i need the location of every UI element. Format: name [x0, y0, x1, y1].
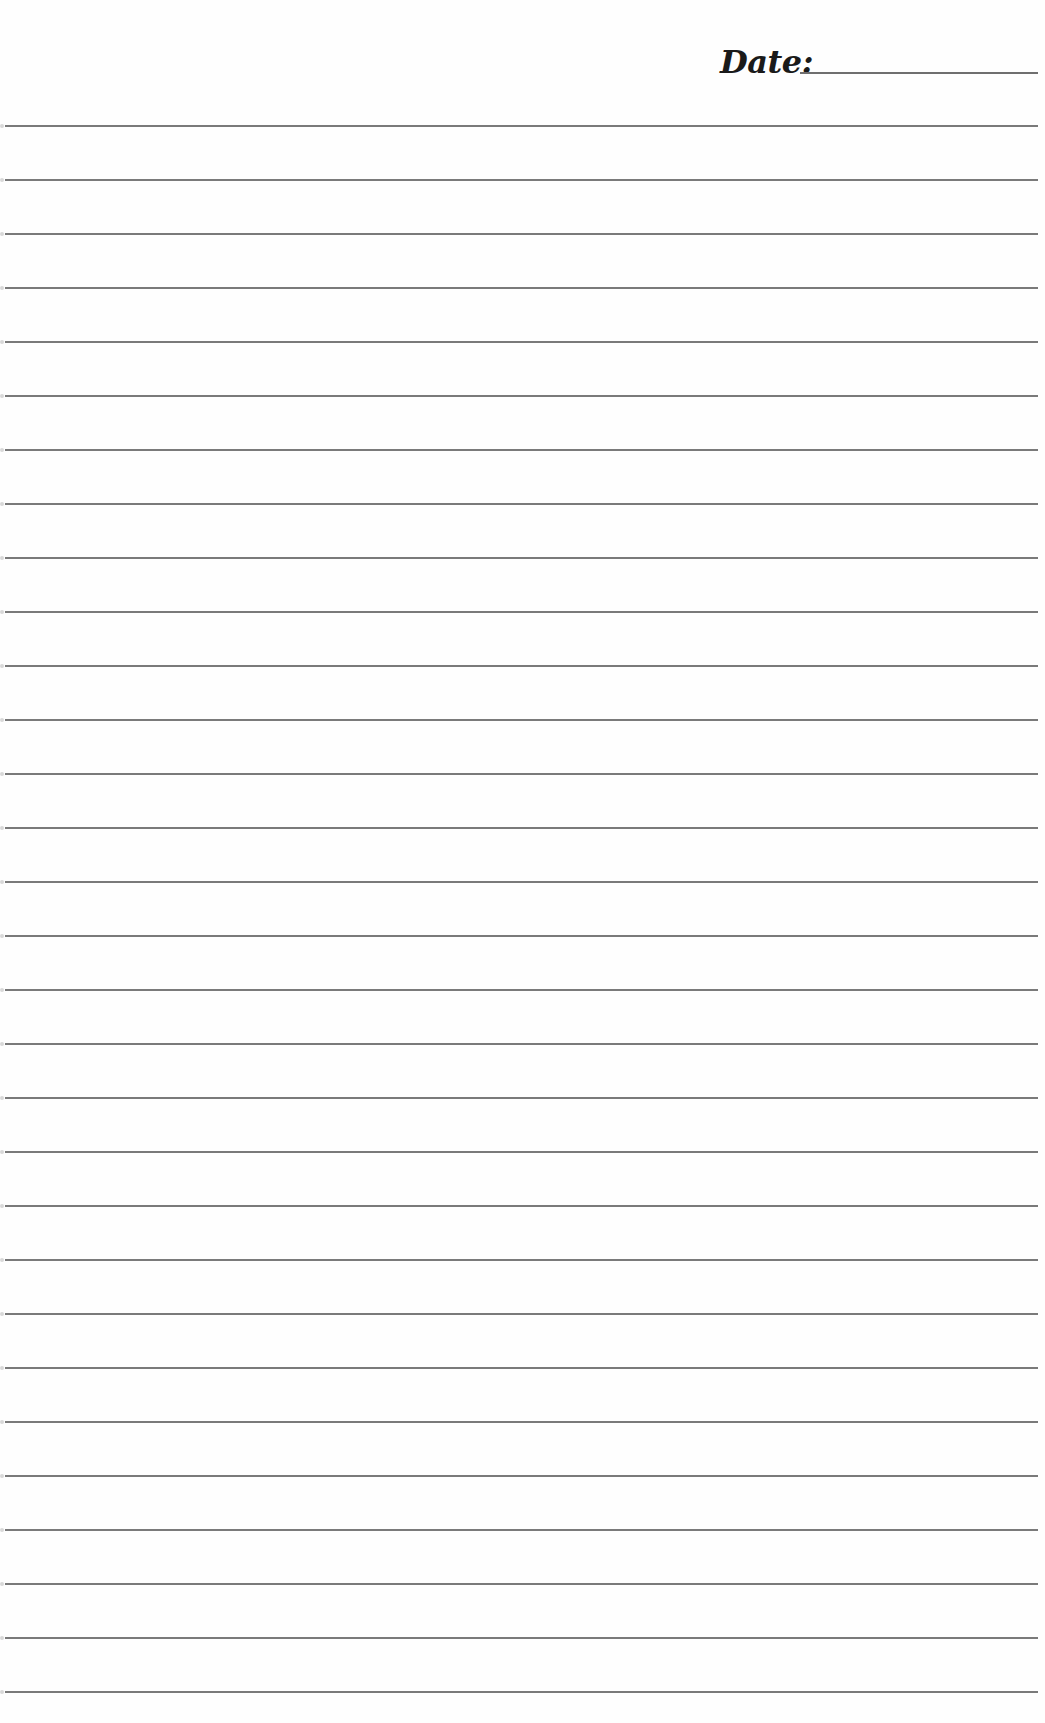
- date-field: Date:: [720, 38, 813, 78]
- writing-line: [5, 1421, 1038, 1423]
- date-label: Date:: [720, 46, 813, 78]
- writing-line: [5, 557, 1038, 559]
- writing-line: [5, 1259, 1038, 1261]
- writing-line: [5, 1691, 1038, 1693]
- writing-line: [5, 1151, 1038, 1153]
- writing-line: [5, 1097, 1038, 1099]
- writing-line: [5, 1205, 1038, 1207]
- writing-line: [5, 125, 1038, 127]
- writing-line: [5, 665, 1038, 667]
- lined-paper-page: Date:: [0, 0, 1045, 1723]
- writing-line: [5, 1475, 1038, 1477]
- date-input-line[interactable]: [800, 72, 1038, 74]
- writing-line: [5, 1583, 1038, 1585]
- writing-line: [5, 341, 1038, 343]
- writing-line: [5, 1367, 1038, 1369]
- writing-line: [5, 1043, 1038, 1045]
- writing-line: [5, 179, 1038, 181]
- writing-line: [5, 1637, 1038, 1639]
- writing-line: [5, 989, 1038, 991]
- writing-line: [5, 935, 1038, 937]
- writing-line: [5, 881, 1038, 883]
- writing-line: [5, 1313, 1038, 1315]
- writing-line: [5, 827, 1038, 829]
- writing-line: [5, 611, 1038, 613]
- writing-line: [5, 287, 1038, 289]
- writing-line: [5, 719, 1038, 721]
- writing-line: [5, 773, 1038, 775]
- writing-line: [5, 503, 1038, 505]
- writing-line: [5, 395, 1038, 397]
- writing-line: [5, 1529, 1038, 1531]
- writing-line: [5, 233, 1038, 235]
- writing-line: [5, 449, 1038, 451]
